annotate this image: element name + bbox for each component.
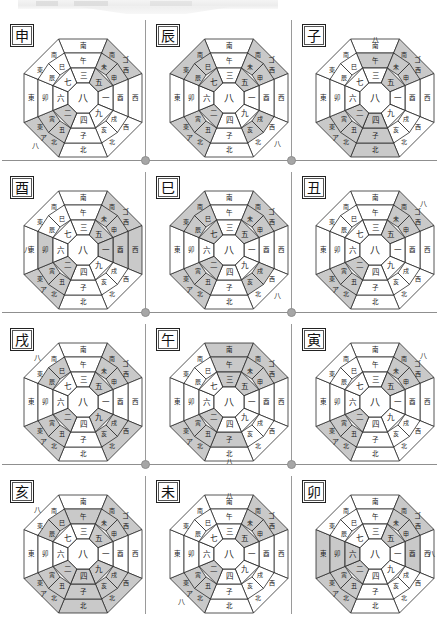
svg-text:三: 三 [372,527,379,536]
svg-text:卯: 卯 [334,245,341,254]
svg-text:東: 東 [329,218,335,226]
svg-text:亥: 亥 [393,126,399,134]
svg-text:寅: 寅 [341,571,347,579]
svg-text:辰: 辰 [195,74,201,82]
svg-text:四: 四 [372,268,379,277]
svg-text:八: 八 [274,292,281,300]
svg-text:寅: 寅 [49,115,55,123]
svg-text:北: 北 [372,450,379,458]
svg-text:八: 八 [370,245,380,256]
svg-text:酉: 酉 [263,550,270,558]
svg-text:東: 東 [174,245,181,254]
svg-text:子: 子 [226,436,233,444]
svg-text:未: 未 [393,367,399,375]
column-divider [291,476,292,614]
svg-text:六: 六 [57,397,65,407]
svg-text:午: 午 [372,512,379,521]
svg-text:北: 北 [51,594,57,602]
svg-text:北: 北 [197,290,203,298]
svg-text:ゴ: ゴ [414,55,421,64]
column-divider [145,172,146,310]
svg-text:丑: 丑 [59,430,65,437]
octagon-diagram: 八三五一九四二六七午未申酉戌亥子丑寅卯辰巳南南西西西北北北東東東南ゴア八 [313,186,437,316]
divider-dot [287,308,296,317]
svg-text:未: 未 [101,519,107,527]
svg-text:一: 一 [394,550,402,559]
svg-text:六: 六 [349,245,357,255]
svg-text:八: 八 [24,246,31,254]
column-divider [291,324,292,462]
svg-text:亥: 亥 [247,278,253,286]
svg-text:東: 東 [320,549,327,558]
svg-text:六: 六 [57,245,65,255]
svg-text:東: 東 [183,579,189,587]
svg-text:南: 南 [255,507,261,514]
svg-text:東: 東 [183,427,189,435]
svg-text:ア: ア [186,286,193,294]
svg-text:東: 東 [174,397,181,406]
chart-cell-辰: 辰八三五一九四二六七午未申酉戌亥子丑寅卯辰巳南南西西西北北北東東東南ゴア八 [147,16,293,168]
svg-text:七: 七 [210,78,218,87]
svg-text:西: 西 [269,218,275,226]
octagon-diagram: 八三五一九四二六七午未申酉戌亥子丑寅卯辰巳南南西西西北北北東東東南ゴア八 [21,338,145,468]
svg-text:巳: 巳 [205,63,211,70]
svg-text:南: 南 [51,203,57,210]
svg-text:南: 南 [197,51,203,58]
chart-cell-寅: 寅八三五一九四二六七午未申酉戌亥子丑寅卯辰巳南南西西西北北北東東東南ゴア八 [293,320,439,472]
svg-text:三: 三 [372,71,379,80]
svg-text:一: 一 [248,94,256,103]
svg-text:西: 西 [132,94,139,102]
svg-text:卯: 卯 [42,397,49,406]
chart-grid: 申八三五一九四二六七午未申酉戌亥子丑寅卯辰巳南南西西西北北北東東東南ゴア八辰八三… [0,14,439,627]
svg-text:子: 子 [372,588,379,596]
svg-text:八: 八 [78,245,88,256]
row-divider [2,160,437,161]
svg-text:東: 東 [37,427,43,435]
svg-text:亥: 亥 [247,582,253,590]
svg-text:八: 八 [372,36,379,44]
svg-text:七: 七 [64,534,72,543]
chart-cell-戌: 戌八三五一九四二六七午未申酉戌亥子丑寅卯辰巳南南西西西北北北東東東南ゴア八 [1,320,147,472]
svg-text:二: 二 [356,413,364,422]
svg-text:南: 南 [255,355,261,362]
svg-text:辰: 辰 [49,378,55,386]
svg-text:卯: 卯 [42,549,49,558]
svg-text:一: 一 [248,246,256,255]
svg-text:申: 申 [257,530,263,538]
svg-text:西: 西 [415,123,421,131]
svg-text:卯: 卯 [42,93,49,102]
svg-text:戌: 戌 [111,115,117,123]
svg-text:巳: 巳 [205,519,211,526]
svg-text:亥: 亥 [101,278,107,286]
svg-text:二: 二 [356,565,364,574]
divider-dot [141,156,150,165]
svg-text:戌: 戌 [403,115,409,123]
svg-text:五: 五 [387,534,395,543]
svg-text:北: 北 [372,298,379,306]
svg-text:南: 南 [343,203,349,210]
svg-text:北: 北 [255,290,261,298]
svg-text:一: 一 [248,398,256,407]
svg-text:四: 四 [372,572,379,581]
svg-text:子: 子 [226,284,233,292]
svg-text:二: 二 [356,261,364,270]
svg-text:南: 南 [109,51,115,58]
svg-text:三: 三 [226,527,233,536]
svg-text:子: 子 [226,132,233,140]
svg-text:北: 北 [255,594,261,602]
svg-text:ア: ア [40,134,47,142]
svg-text:二: 二 [210,413,218,422]
svg-text:子: 子 [80,436,87,444]
svg-text:午: 午 [372,208,379,217]
svg-text:九: 九 [95,413,103,422]
svg-text:八: 八 [420,352,427,360]
svg-text:卯: 卯 [42,245,49,254]
svg-text:申: 申 [111,226,117,234]
svg-text:北: 北 [343,290,349,298]
svg-text:丑: 丑 [351,582,357,589]
svg-text:酉: 酉 [263,398,270,406]
svg-text:三: 三 [226,71,233,80]
svg-text:巳: 巳 [351,63,357,70]
svg-text:西: 西 [269,123,275,131]
svg-text:東: 東 [183,123,189,131]
